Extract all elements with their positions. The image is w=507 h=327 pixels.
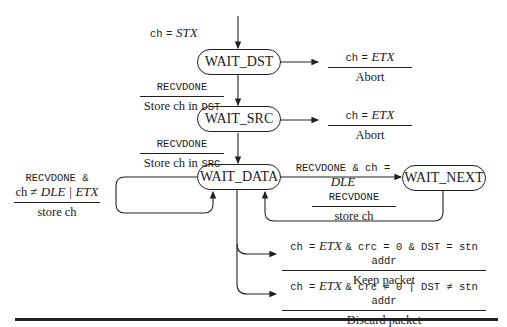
state-wait-dst[interactable]: WAIT_DST [197, 49, 281, 75]
transition-data-to-next: RECVDONE & ch = DLE [283, 161, 403, 190]
transition-next-to-data: RECVDONE store ch [312, 190, 396, 223]
state-wait-next[interactable]: WAIT_NEXT [402, 165, 486, 191]
transition-src-abort: ch = ETX Abort [328, 108, 412, 142]
entry-condition: ch = STX [150, 26, 198, 41]
transition-dst-to-src: RECVDONE Store ch in DST [140, 80, 224, 114]
transition-dst-abort: ch = ETX Abort [328, 50, 412, 84]
transition-src-to-data: RECVDONE Store ch in SRC [140, 137, 224, 171]
bottom-rule [15, 318, 498, 321]
transition-data-self: RECVDONE & ch ≠ DLE | ETX store ch [14, 171, 100, 219]
